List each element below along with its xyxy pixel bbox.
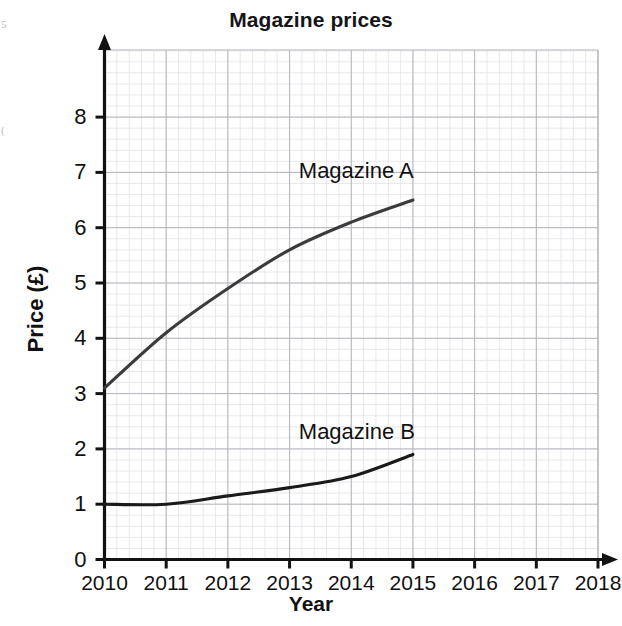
series-label-magazine-a: Magazine A <box>299 158 414 184</box>
x-tick-label: 2016 <box>440 572 510 593</box>
y-tick-label: 0 <box>53 549 87 571</box>
series-label-magazine-b: Magazine B <box>299 419 415 445</box>
axis-tick-marks <box>96 117 599 568</box>
x-tick-label: 2014 <box>316 572 386 593</box>
y-tick-label: 5 <box>53 272 87 294</box>
y-tick-label: 1 <box>53 493 87 515</box>
y-tick-label: 2 <box>53 438 87 460</box>
chart-figure: 5 ( Magazine prices Price (£) Year 01234… <box>0 0 622 626</box>
plot-area <box>0 0 622 626</box>
x-tick-label: 2011 <box>131 572 201 593</box>
x-tick-label: 2015 <box>378 572 448 593</box>
axis-lines <box>98 34 618 566</box>
x-tick-label: 2010 <box>70 572 140 593</box>
y-tick-label: 4 <box>53 327 87 349</box>
x-tick-label: 2017 <box>501 572 571 593</box>
y-tick-label: 3 <box>53 383 87 405</box>
y-tick-label: 6 <box>53 217 87 239</box>
x-tick-label: 2018 <box>563 572 622 593</box>
y-tick-label: 8 <box>53 106 87 128</box>
x-tick-label: 2012 <box>193 572 263 593</box>
series-line-magazine-b <box>105 454 413 504</box>
x-tick-label: 2013 <box>255 572 325 593</box>
data-series-lines <box>105 200 413 505</box>
y-tick-label: 7 <box>53 161 87 183</box>
